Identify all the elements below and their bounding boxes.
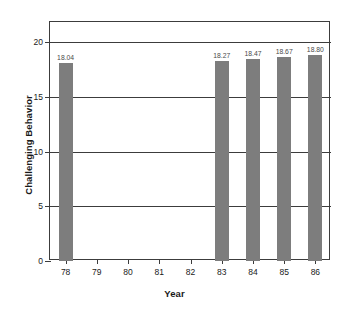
x-axis-tick (128, 259, 129, 264)
bar (215, 61, 229, 261)
x-axis-label: 81 (155, 267, 164, 277)
y-axis-tick (45, 261, 51, 262)
y-axis-tick (45, 42, 51, 43)
gridline (50, 42, 331, 43)
x-axis-label: 85 (279, 267, 288, 277)
y-axis-label: 10 (19, 147, 43, 157)
bar-value-label: 18.67 (276, 48, 293, 55)
x-axis-label: 79 (92, 267, 101, 277)
x-axis-label: 78 (61, 267, 70, 277)
bar-value-label: 18.27 (213, 52, 230, 59)
plot-area: 05101520 787980818283848586 18.0418.2718… (49, 21, 330, 260)
bar-value-label: 18.47 (244, 50, 261, 57)
bar (59, 63, 73, 261)
y-axis-tick (45, 152, 51, 153)
x-axis-label: 83 (217, 267, 226, 277)
x-axis-tick (97, 259, 98, 264)
bar-value-label: 18.80 (307, 46, 324, 53)
x-axis-title: Year (0, 288, 349, 299)
y-axis-label: 20 (19, 37, 43, 47)
x-axis-label: 84 (248, 267, 257, 277)
bar-chart: Challenging Behavior 05101520 7879808182… (0, 0, 349, 312)
bar (246, 59, 260, 261)
bar (277, 57, 291, 261)
y-axis-label: 0 (19, 256, 43, 266)
y-axis-label: 5 (19, 201, 43, 211)
x-axis-tick (159, 259, 160, 264)
y-axis-tick (45, 97, 51, 98)
bar (308, 55, 322, 261)
x-axis-label: 86 (311, 267, 320, 277)
x-axis-label: 80 (123, 267, 132, 277)
y-axis-tick (45, 206, 51, 207)
x-axis-label: 82 (186, 267, 195, 277)
y-axis-label: 15 (19, 92, 43, 102)
x-axis-tick (191, 259, 192, 264)
bar-value-label: 18.04 (57, 54, 74, 61)
